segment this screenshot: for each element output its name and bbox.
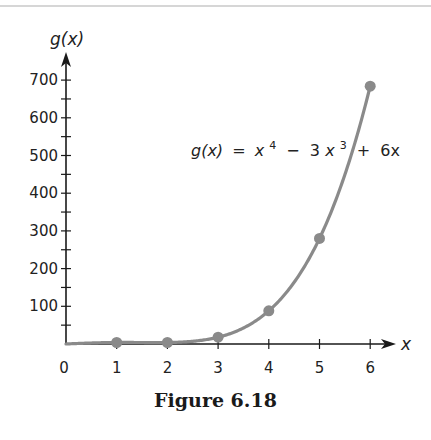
y-tick-label: 600	[29, 109, 58, 127]
data-point	[213, 332, 224, 343]
function-equation: g(x) = x 4 − 3 x 3 + 6x	[191, 134, 400, 160]
x-axis-label: x	[400, 334, 412, 354]
x-tick-label: 2	[163, 359, 173, 377]
curve	[66, 86, 370, 344]
function-curve	[66, 86, 370, 344]
y-axis-label: g(x)	[50, 29, 84, 49]
data-points	[111, 81, 376, 348]
x-tick-label: 1	[112, 359, 122, 377]
ticks: 1002003004005006007001234560	[29, 71, 375, 377]
x-tick-label: 5	[315, 359, 325, 377]
figure-caption: Figure 6.18	[0, 389, 431, 411]
y-tick-label: 500	[29, 147, 58, 165]
axes	[61, 52, 396, 349]
chart: 1002003004005006007001234560 g(x) x g(x)…	[0, 0, 431, 385]
data-point	[111, 337, 122, 348]
y-tick-label: 300	[29, 222, 58, 240]
x-tick-label: 4	[264, 359, 274, 377]
y-tick-label: 400	[29, 184, 58, 202]
y-tick-label: 200	[29, 260, 58, 278]
data-point	[314, 233, 325, 244]
data-point	[162, 337, 173, 348]
x-tick-label: 6	[365, 359, 375, 377]
x-tick-label: 3	[213, 359, 223, 377]
origin-label: 0	[59, 359, 69, 377]
data-point	[365, 81, 376, 92]
y-tick-label: 100	[29, 297, 58, 315]
y-tick-label: 700	[29, 71, 58, 89]
eq-lhs: g(x)	[191, 141, 223, 160]
data-point	[263, 305, 274, 316]
